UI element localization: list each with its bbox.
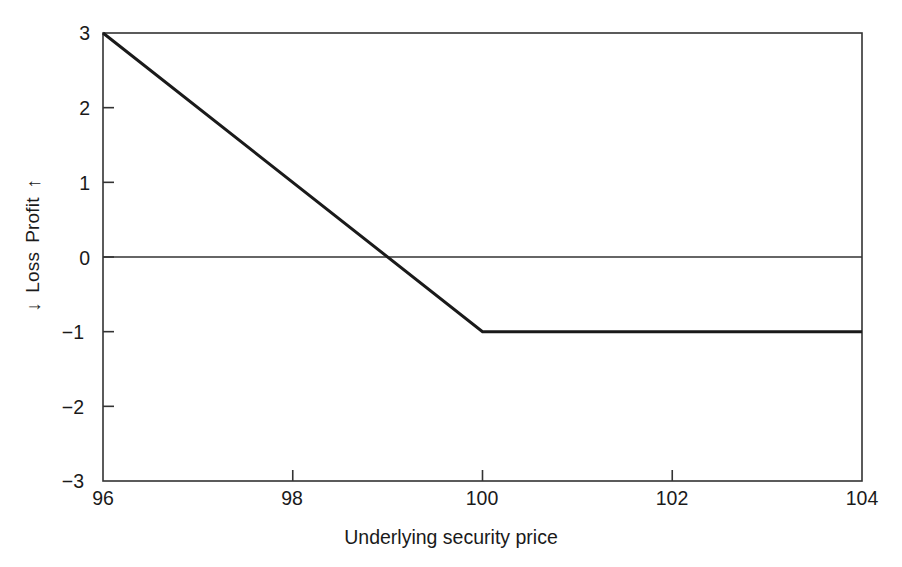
plot-area <box>0 0 902 567</box>
x-tick-marks <box>293 470 673 481</box>
payoff-line <box>103 33 862 332</box>
chart-figure: ↓ Loss Profit ↑ 3 2 1 0 −1 −2 −3 96 98 1… <box>0 0 902 567</box>
